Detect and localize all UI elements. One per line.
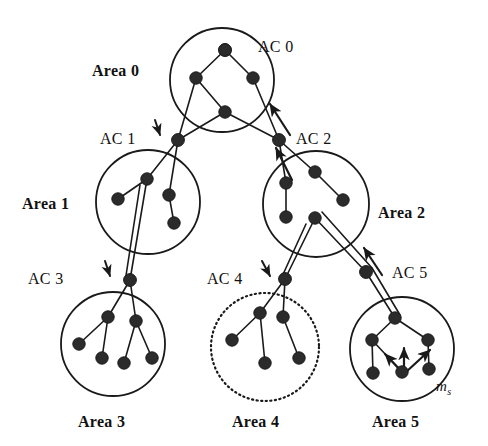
diagram-canvas [0,0,488,446]
connector-label-ac2: AC 2 [296,131,331,147]
ac4-pointer-arrow [262,261,270,276]
ac1-pointer-arrow [155,120,160,135]
node-a4-n3 [226,334,238,346]
area0-to-ac2-b [225,112,279,140]
inter-area-link-group [108,78,400,321]
node-a3-n1 [102,311,114,323]
node-a3-n4 [96,352,108,364]
flow-arrow-group [105,104,430,374]
node-a2-n1 [309,166,321,178]
node-ac3 [124,274,137,287]
ms-marker-subscript: s [447,386,451,397]
node-a5-n2 [366,334,378,346]
node-a4-n2 [277,311,289,323]
node-a1-n1 [141,173,153,185]
area2-to-ac4-a [285,218,315,279]
node-ac1 [172,134,185,147]
area-circle-area1 [96,150,200,254]
node-a5-n5 [396,366,408,378]
area-label-area3: Area 3 [78,414,125,430]
ac3-pointer-arrow [105,261,110,276]
network-topology-figure: AC 0AC 1AC 2AC 3AC 4AC 5Area 0Area 1Area… [0,0,488,446]
ms-marker-base: m [436,378,447,394]
node-a2-n5 [309,212,321,224]
node-a1-n4 [168,217,180,229]
node-a3-n5 [118,357,130,369]
ms-marker-label: ms [436,379,451,397]
connector-label-ac1: AC 1 [100,131,135,147]
node-a3-n3 [73,338,85,350]
node-a4-n1 [254,307,266,319]
connector-label-ac0: AC 0 [258,39,293,55]
node-a2-n4 [280,211,292,223]
area2-to-ac5-a [315,218,366,272]
area-label-area2: Area 2 [378,205,425,221]
area-label-area1: Area 1 [22,196,69,212]
area-label-area5: Area 5 [372,414,419,430]
node-a2-n3 [337,194,349,206]
node-a0-n2 [190,72,202,84]
connector-label-ac3: AC 3 [28,271,63,287]
area-label-area4: Area 4 [232,414,279,430]
connector-label-ac4: AC 4 [207,271,242,287]
node-a1-n3 [163,189,175,201]
node-ac5 [360,266,373,279]
node-a5-n3 [422,334,434,346]
node-a4-n5 [293,352,305,364]
arrow-to-ac0 [270,104,290,135]
node-a2-n2 [280,177,292,189]
node-a5-n1 [389,312,401,324]
connector-label-ac5: AC 5 [392,265,427,281]
node-ac2 [273,134,286,147]
node-a3-n2 [130,315,142,327]
area2-to-ac5-b [322,212,372,268]
node-ac0 [219,44,232,57]
node-a0-n4 [219,106,231,118]
node-a4-n4 [259,357,271,369]
ac5-to-area5-a [366,272,395,318]
node-ac4 [279,273,292,286]
node-a0-n3 [247,72,259,84]
node-a5-n6 [423,363,435,375]
node-a3-n6 [146,352,158,364]
ac1-to-area1-b [169,140,178,195]
node-a5-n4 [367,367,379,379]
link-a4-n1-a4-n4 [260,313,265,363]
link-a0-n2-a0-n4 [196,78,225,112]
node-a1-n2 [112,193,124,205]
area-label-area0: Area 0 [92,63,139,79]
